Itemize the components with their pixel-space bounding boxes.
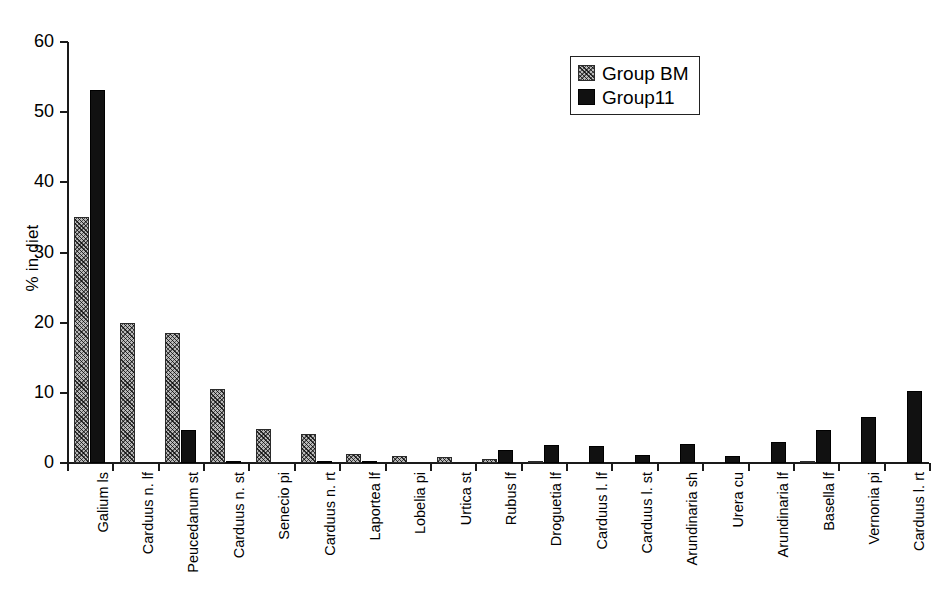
x-tick-mark: [702, 463, 704, 471]
x-tick-label: Carduus l. rt: [912, 472, 927, 551]
y-tick-label: 20: [12, 313, 54, 331]
x-tick-mark: [475, 463, 477, 471]
bar-group-bm: [800, 461, 815, 463]
x-category-label: Arundinaria lf: [776, 472, 791, 557]
bar-group: [248, 42, 293, 463]
plot-area: [67, 42, 929, 463]
bar-group-11: [226, 461, 241, 463]
x-tick-mark: [294, 463, 296, 471]
x-category-label: Peucedanum st: [186, 472, 201, 573]
x-tick-mark: [158, 463, 160, 471]
x-category-label: Senecio pi: [277, 472, 292, 540]
bar-group-11: [317, 461, 332, 463]
x-category-label: Carduus l. lf: [595, 472, 610, 549]
hatched-swatch: [578, 65, 595, 81]
y-tick-label: 30: [12, 243, 54, 261]
x-tick-mark: [521, 463, 523, 471]
bar-group-bm: [437, 457, 452, 463]
bar-group: [884, 42, 929, 463]
x-tick-mark: [748, 463, 750, 471]
bar-group-11: [362, 461, 377, 463]
legend-item: Group BM: [578, 61, 689, 85]
bar-group-11: [907, 391, 922, 463]
x-tick-label: Carduus l. st: [640, 472, 655, 553]
bar-group: [702, 42, 747, 463]
x-category-label: Droguetia lf: [549, 472, 564, 546]
x-tick-mark: [203, 463, 205, 471]
legend-item: Group11: [578, 85, 689, 109]
bar-group: [793, 42, 838, 463]
x-tick-mark: [611, 463, 613, 471]
y-tick-label: 60: [12, 32, 54, 50]
bar-group: [748, 42, 793, 463]
legend-label: Group BM: [602, 64, 689, 83]
y-tick-label: 10: [12, 383, 54, 401]
y-tick-label: 40: [12, 172, 54, 190]
bar-group-11: [90, 90, 105, 463]
x-category-label: Galium ls: [96, 472, 111, 532]
x-tick-mark: [248, 463, 250, 471]
bar-group-11: [635, 455, 650, 463]
bar-group: [521, 42, 566, 463]
bar-group: [158, 42, 203, 463]
y-tick-label: 0: [12, 453, 54, 471]
x-tick-label: Peucedanum st: [186, 472, 201, 573]
x-category-label: Carduus n. lf: [141, 472, 156, 554]
legend-label: Group11: [602, 88, 675, 107]
x-tick-label: Laportea lf: [368, 472, 383, 541]
x-tick-label: Urtica st: [459, 472, 474, 525]
x-category-label: Carduus l. st: [640, 472, 655, 553]
bar-group-bm: [346, 454, 361, 463]
x-category-label: Lobelia pi: [413, 472, 428, 534]
bar-group-bm: [392, 456, 407, 463]
bar-group: [385, 42, 430, 463]
x-tick-label: Galium ls: [96, 472, 111, 532]
x-tick-label: Urera cu: [731, 472, 746, 528]
bar-group-bm: [165, 333, 180, 463]
bar-group-11: [861, 417, 876, 463]
bar-group-bm: [528, 461, 543, 463]
bar-group: [339, 42, 384, 463]
x-tick-label: Rubus lf: [504, 472, 519, 525]
bar-group-11: [680, 444, 695, 463]
x-tick-mark: [657, 463, 659, 471]
x-category-label: Basella lf: [822, 472, 837, 531]
bar-group: [430, 42, 475, 463]
y-tick-label: 50: [12, 102, 54, 120]
x-category-label: Carduus n. st: [232, 472, 247, 558]
x-category-label: Arundinaria sh: [685, 472, 700, 566]
bar-group-bm: [301, 434, 316, 463]
x-category-label: Urera cu: [731, 472, 746, 528]
x-tick-mark: [566, 463, 568, 471]
x-category-label: Laportea lf: [368, 472, 383, 541]
x-tick-mark: [929, 463, 931, 471]
x-tick-label: Droguetia lf: [549, 472, 564, 546]
x-tick-label: Carduus n. lf: [141, 472, 156, 554]
x-tick-mark: [884, 463, 886, 471]
x-tick-label: Lobelia pi: [413, 472, 428, 534]
x-tick-label: Arundinaria sh: [685, 472, 700, 566]
x-tick-label: Senecio pi: [277, 472, 292, 540]
x-tick-mark: [112, 463, 114, 471]
bar-group-11: [498, 450, 513, 463]
x-category-label: Urtica st: [459, 472, 474, 525]
x-tick-mark: [793, 463, 795, 471]
x-category-label: Rubus lf: [504, 472, 519, 525]
bar-group-11: [816, 430, 831, 463]
x-tick-label: Carduus n. rt: [323, 472, 338, 556]
x-category-label: Carduus n. rt: [323, 472, 338, 556]
x-tick-label: Arundinaria lf: [776, 472, 791, 557]
x-tick-mark: [838, 463, 840, 471]
bar-group: [838, 42, 883, 463]
bar-group: [294, 42, 339, 463]
bar-group-11: [544, 445, 559, 463]
bar-group: [475, 42, 520, 463]
bar-group-11: [181, 430, 196, 463]
solid-black-swatch: [578, 89, 595, 105]
bar-group-bm: [74, 217, 89, 463]
bar-group: [203, 42, 248, 463]
bar-group-bm: [120, 323, 135, 463]
x-tick-mark: [67, 463, 69, 471]
x-tick-label: Basella lf: [822, 472, 837, 531]
x-tick-mark: [430, 463, 432, 471]
